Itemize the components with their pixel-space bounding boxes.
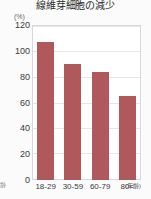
bar	[64, 64, 81, 180]
y-axis-tick: 120	[0, 21, 30, 30]
x-axis-note: (年齢)	[125, 181, 141, 192]
bar	[119, 96, 136, 180]
bar	[37, 42, 54, 180]
bar	[92, 72, 109, 181]
chart-figure: 線維芽細胞の減少 (%) 120 100 80 60 40 20 0 18-29…	[0, 0, 151, 199]
x-axis-tick: 30-59	[59, 181, 86, 192]
y-axis-tick: 20	[0, 150, 30, 159]
y-axis-tick: 60	[0, 98, 30, 107]
chart-title: 線維芽細胞の減少	[0, 0, 151, 12]
left-edge-fragment: 齢	[0, 180, 8, 190]
y-axis-tick: 100	[0, 46, 30, 55]
y-axis-tick: 80	[0, 72, 30, 81]
y-axis-tick-labels: 120 100 80 60 40 20 0	[0, 25, 30, 180]
x-axis-tick: 18-29	[32, 181, 59, 192]
x-axis-tick: 60-79	[87, 181, 114, 192]
y-axis-tick: 40	[0, 124, 30, 133]
bar-series	[32, 25, 141, 180]
